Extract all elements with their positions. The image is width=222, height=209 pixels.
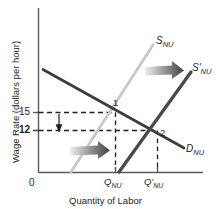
curve-label-demand: DNU <box>186 144 204 157</box>
curve-label-demand-sub: NU <box>193 148 204 157</box>
equilibrium-label-2: 2 <box>160 128 165 138</box>
wage-rate-labor-market-chart: Wage Rate (dollars per hour) Quantity of… <box>0 0 222 209</box>
x-axis-title: Quantity of Labor <box>69 196 142 206</box>
y-tick-label-12: 12 <box>14 125 30 135</box>
x-tick-label-qnu-sub: NU <box>111 182 121 189</box>
y-tick-label-15: 15 <box>14 107 30 117</box>
curve-label-supply-new-text: S' <box>192 62 201 73</box>
x-tick-label-qnu-prime-sub: NU <box>153 182 163 189</box>
x-tick-label-qnu-prime-text: Q <box>144 176 151 187</box>
x-tick-label-qnu: QNU <box>104 177 122 189</box>
x-tick-label-qnu-prime: Q′NU <box>144 177 163 189</box>
curve-supply-new <box>119 72 191 172</box>
curve-label-supply-new: S'NU <box>192 63 211 76</box>
origin-label: 0 <box>29 178 35 188</box>
curve-label-supply-new-sub: NU <box>201 67 212 76</box>
curve-label-supply-original-text: S <box>156 35 163 46</box>
curve-label-supply-original: SNU <box>156 36 174 49</box>
equilibrium-label-1: 1 <box>113 98 118 108</box>
supply-shift-arrow-upper <box>145 61 184 79</box>
y-axis-title: Wage Rate (dollars per hour) <box>11 41 21 163</box>
curve-label-supply-original-sub: NU <box>163 40 174 49</box>
